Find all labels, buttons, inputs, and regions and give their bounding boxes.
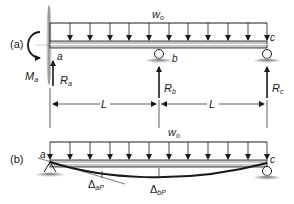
panel-a: (a) wo — [10, 5, 284, 128]
panel-b: (b) wo — [10, 126, 280, 196]
span-2-label: L — [209, 98, 215, 110]
moment-arrow-icon — [28, 32, 40, 58]
point-b-label: b — [172, 53, 178, 64]
moment-label: Ma — [25, 70, 38, 83]
ground-a — [36, 173, 64, 178]
ground-c-b — [254, 176, 280, 181]
point-a-label: a — [57, 51, 63, 62]
panel-b-label: (b) — [10, 153, 23, 165]
ground-b — [146, 59, 172, 64]
point-a-label-b: a — [40, 149, 46, 160]
panel-a-label: (a) — [10, 38, 23, 50]
roller-support-b-icon — [155, 50, 164, 59]
reaction-c-label: Rc — [272, 82, 284, 95]
deflection-aP-label: ΔaP — [88, 178, 104, 191]
reaction-a-label: Ra — [60, 74, 72, 87]
ground-c — [254, 59, 280, 64]
point-c-label-b: c — [270, 154, 275, 165]
reaction-b-label: Rb — [164, 82, 176, 95]
load-label-b: wo — [168, 126, 180, 139]
point-c-label: c — [270, 32, 275, 43]
load-label-a: wo — [152, 8, 164, 21]
roller-support-c-icon — [263, 50, 272, 59]
distributed-load-b: wo — [50, 126, 267, 159]
beam-diagram: (a) wo — [0, 0, 294, 204]
distributed-load-a: wo — [50, 8, 267, 41]
span-1-label: L — [101, 98, 107, 110]
roller-support-c-b-icon — [263, 167, 272, 176]
deflection-bP-label: ΔbP — [150, 183, 166, 196]
